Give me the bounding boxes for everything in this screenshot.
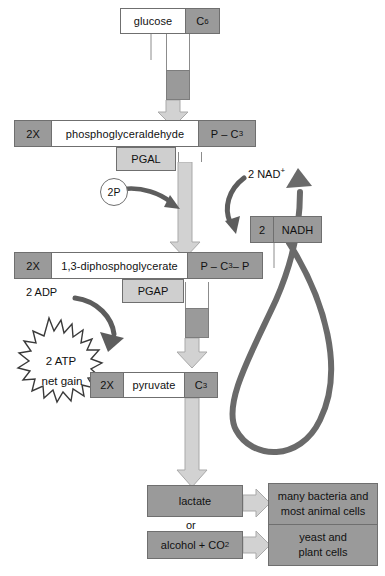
product-box-lactate[interactable]: lactate bbox=[147, 485, 243, 517]
block-arrow-alcohol-to-organisms bbox=[243, 531, 270, 559]
organisms-lactate-line2: most animal cells bbox=[281, 505, 365, 517]
nad-label-text: 2 NAD bbox=[248, 168, 280, 180]
glucose-carbon-letter: C bbox=[196, 15, 204, 27]
dpg-carbon-letter: P – C bbox=[200, 260, 228, 272]
pyruvate-carbon-formula: C3 bbox=[185, 373, 217, 397]
phosphate-circle[interactable]: 2P bbox=[100, 178, 128, 206]
organisms-alcohol-line1: yeast and bbox=[299, 531, 347, 543]
block-arrow-pgal-to-dpg bbox=[170, 162, 200, 258]
block-arrow-lactate-to-organisms bbox=[243, 489, 270, 517]
dpg-carbon-formula: P – C3 – P bbox=[188, 253, 262, 278]
pyruvate-carbon-sub: 3 bbox=[203, 381, 208, 390]
nad-charge: + bbox=[280, 166, 285, 175]
or-connector-label: or bbox=[186, 519, 196, 531]
step-box-pyruvate[interactable]: 2X pyruvate C3 bbox=[90, 372, 218, 398]
nad-label: 2 NAD+ bbox=[248, 166, 285, 180]
curved-arrow-adp-to-atp bbox=[75, 298, 124, 352]
glucose-carbon-count: C6 bbox=[185, 9, 219, 33]
organisms-lactate-line1: many bacteria and bbox=[278, 490, 369, 502]
connector-stub-white-dpg bbox=[185, 282, 209, 308]
connector-stub-white-pgal bbox=[178, 152, 202, 162]
pgal-multiplier: 2X bbox=[15, 121, 51, 146]
alcohol-label-text: alcohol + CO bbox=[161, 538, 225, 553]
atp-burst-label: 2 ATP bbox=[46, 355, 77, 367]
curved-arrow-nadh-recycle-loop bbox=[232, 168, 331, 452]
glucose-carbon-sub: 6 bbox=[204, 17, 209, 26]
pgal-carbon-formula: P – C3 bbox=[199, 121, 255, 146]
nadh-box[interactable]: 2 NADH bbox=[250, 216, 322, 243]
connector-stub-white-top bbox=[166, 34, 190, 70]
block-arrow-pyruvate-to-lactate bbox=[177, 398, 207, 487]
nadh-count: 2 bbox=[251, 217, 273, 242]
product-box-alcohol[interactable]: alcohol + CO2 bbox=[147, 531, 243, 559]
block-arrow-dpg-to-pyruvate bbox=[177, 338, 207, 368]
adp-label: 2 ADP bbox=[26, 286, 57, 298]
enzyme-box-pgal[interactable]: PGAL bbox=[116, 147, 176, 171]
pgal-carbon-letter: P – C bbox=[211, 128, 239, 140]
glucose-name: glucose bbox=[121, 9, 185, 33]
step-box-glucose[interactable]: glucose C6 bbox=[120, 8, 220, 34]
step-box-diphosphoglycerate[interactable]: 2X 1,3-diphosphoglycerate P – C3 – P bbox=[14, 252, 263, 279]
pyruvate-multiplier: 2X bbox=[91, 373, 123, 397]
curved-arrow-nad-to-nadh bbox=[225, 178, 244, 234]
organisms-lactate-text: many bacteria and most animal cells bbox=[278, 489, 369, 519]
dpg-carbon-tail: – P bbox=[233, 260, 250, 272]
step-box-phosphoglyceraldehyde[interactable]: 2X phosphoglyceraldehyde P – C3 bbox=[14, 120, 256, 147]
nadh-label: NADH bbox=[273, 217, 321, 242]
organisms-alcohol-line2: plant cells bbox=[299, 546, 348, 558]
alcohol-label-sub: 2 bbox=[225, 540, 229, 551]
dpg-multiplier: 2X bbox=[15, 253, 51, 278]
glycolysis-diagram: 2 ATP glucose C6 2X phosphoglyceraldehyd… bbox=[0, 0, 385, 576]
pyruvate-carbon-letter: C bbox=[195, 379, 203, 391]
pyruvate-name: pyruvate bbox=[123, 373, 185, 397]
dpg-name: 1,3-diphosphoglycerate bbox=[51, 253, 188, 278]
organisms-box-alcohol[interactable]: yeast and plant cells bbox=[268, 524, 378, 566]
pgal-carbon-sub: 3 bbox=[239, 129, 244, 138]
connector-stub-dark-dpg bbox=[185, 308, 209, 338]
organisms-alcohol-text: yeast and plant cells bbox=[299, 530, 348, 560]
pgal-name: phosphoglyceraldehyde bbox=[51, 121, 199, 146]
enzyme-box-pgap[interactable]: PGAP bbox=[122, 279, 184, 303]
curved-arrow-phosphate bbox=[124, 189, 180, 209]
connector-stub-dark-top bbox=[166, 70, 190, 100]
organisms-box-lactate[interactable]: many bacteria and most animal cells bbox=[268, 483, 378, 525]
